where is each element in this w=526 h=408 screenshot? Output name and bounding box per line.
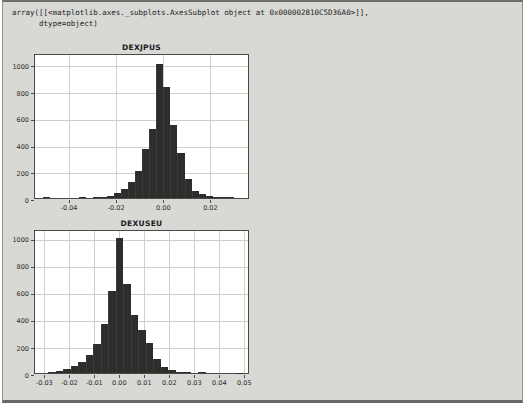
y-tick-mark (31, 294, 34, 295)
histogram-bar (199, 194, 206, 198)
x-tick-mark (69, 200, 70, 203)
y-tick-mark (31, 173, 34, 174)
histogram-bar (48, 372, 56, 373)
x-gridline (44, 231, 45, 373)
x-gridline (169, 231, 170, 373)
y-tick-label: 600 (3, 290, 29, 298)
histogram-bar (138, 330, 146, 373)
histogram-bar (198, 372, 206, 373)
y-tick-mark (31, 66, 34, 67)
y-tick-label: 0 (3, 372, 29, 380)
histogram-bar (56, 371, 64, 373)
histogram-bar (128, 182, 135, 198)
histogram-bar (131, 315, 139, 373)
histogram-bar (135, 171, 142, 198)
x-gridline (116, 55, 117, 198)
y-gridline (35, 66, 248, 67)
y-tick-label: 400 (3, 143, 29, 151)
y-tick-label: 1000 (3, 236, 29, 244)
y-tick-mark (31, 200, 34, 201)
x-tick-mark (219, 375, 220, 378)
histogram-bar (176, 372, 184, 373)
y-tick-mark (31, 375, 34, 376)
y-gridline (35, 294, 248, 295)
histogram-bar (86, 355, 94, 373)
y-tick-label: 800 (3, 263, 29, 271)
x-tick-mark (144, 375, 145, 378)
x-tick-label: -0.03 (36, 379, 53, 387)
notebook-output-screenshot: array([[<matplotlib.axes._subplots.AxesS… (0, 0, 526, 408)
histogram-bar (78, 362, 86, 373)
x-tick-label: 0.02 (162, 379, 176, 387)
code-output-line2: dtype=object) (12, 19, 98, 28)
x-gridline (69, 231, 70, 373)
histogram-bar (168, 370, 176, 373)
histogram-bar (79, 197, 86, 198)
histogram-bar (71, 366, 79, 373)
histogram-bar (156, 64, 163, 198)
y-tick-label: 600 (3, 116, 29, 124)
histogram-bar (185, 179, 192, 198)
histogram-bar (177, 153, 184, 198)
y-gridline (35, 147, 248, 148)
y-tick-mark (31, 267, 34, 268)
x-tick-mark (69, 375, 70, 378)
x-tick-label: -0.01 (86, 379, 103, 387)
x-tick-label: 0.03 (187, 379, 201, 387)
histogram-dexjpus: DEXJPUS -0.04-0.020.000.0202004006008001… (34, 54, 249, 199)
histogram-bar (116, 238, 124, 373)
histogram-bar (100, 197, 107, 198)
histogram-bar (149, 129, 156, 198)
y-gridline (35, 120, 248, 121)
x-gridline (69, 55, 70, 198)
histogram-dexuseu: DEXUSEU -0.03-0.02-0.010.000.010.020.030… (34, 230, 249, 374)
histogram-bar (206, 196, 213, 198)
y-tick-label: 0 (3, 197, 29, 205)
y-gridline (35, 321, 248, 322)
y-tick-mark (31, 147, 34, 148)
y-tick-label: 200 (3, 170, 29, 178)
x-tick-label: 0.02 (203, 204, 217, 212)
y-tick-mark (31, 240, 34, 241)
histogram-bar (93, 197, 100, 198)
y-tick-label: 800 (3, 90, 29, 98)
histogram-bar (227, 197, 234, 198)
y-gridline (35, 240, 248, 241)
x-tick-label: 0.04 (212, 379, 226, 387)
y-gridline (35, 267, 248, 268)
histogram-bar (153, 359, 161, 373)
histogram-bar (161, 367, 169, 373)
histogram-bar (107, 196, 114, 198)
code-output-line1: array([[<matplotlib.axes._subplots.AxesS… (12, 8, 369, 17)
histogram-bar (220, 197, 227, 198)
histogram-bar (108, 291, 116, 373)
y-tick-mark (31, 321, 34, 322)
x-tick-mark (163, 200, 164, 203)
histogram-bar (101, 324, 109, 373)
x-tick-mark (194, 375, 195, 378)
x-gridline (210, 55, 211, 198)
x-tick-label: 0.00 (112, 379, 126, 387)
y-tick-mark (31, 120, 34, 121)
histogram-bar (213, 197, 220, 198)
x-tick-label: 0.05 (237, 379, 251, 387)
chart-title-dexjpus: DEXJPUS (35, 43, 248, 52)
x-gridline (219, 231, 220, 373)
y-tick-label: 400 (3, 317, 29, 325)
histogram-bar (123, 284, 131, 373)
histogram-bar (192, 191, 199, 198)
histogram-bar (183, 372, 191, 373)
y-gridline (35, 93, 248, 94)
histogram-bar (170, 125, 177, 199)
output-panel: array([[<matplotlib.axes._subplots.AxesS… (2, 0, 523, 403)
x-tick-mark (119, 375, 120, 378)
histogram-bar (163, 87, 170, 198)
histogram-bar (146, 343, 154, 373)
chart-title-dexuseu: DEXUSEU (35, 219, 248, 228)
x-tick-mark (116, 200, 117, 203)
x-gridline (194, 231, 195, 373)
y-tick-label: 1000 (3, 63, 29, 71)
histogram-bar (93, 344, 101, 373)
x-tick-mark (44, 375, 45, 378)
x-tick-label: -0.04 (61, 204, 78, 212)
